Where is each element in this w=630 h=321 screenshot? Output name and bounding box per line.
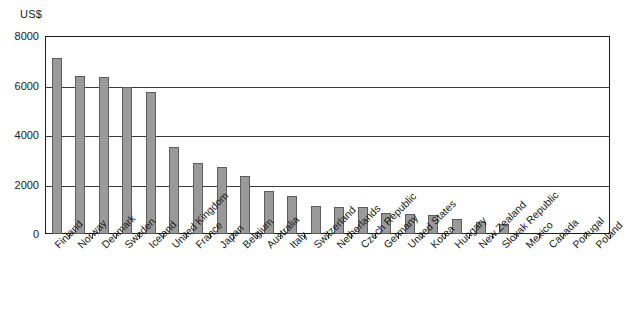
bar[interactable] <box>52 58 62 234</box>
y-tick-label-0: 0 <box>33 228 39 240</box>
bar-chart: US$ 02000400060008000 FinlandNorwayDenma… <box>0 0 630 321</box>
bar[interactable] <box>75 76 85 234</box>
y-tick-label-4000: 4000 <box>15 129 39 141</box>
y-tick-label-6000: 6000 <box>15 80 39 92</box>
bar[interactable] <box>311 206 321 234</box>
bar[interactable] <box>146 92 156 234</box>
y-tick-label-8000: 8000 <box>15 30 39 42</box>
bar[interactable] <box>99 77 109 234</box>
y-tick-label-2000: 2000 <box>15 179 39 191</box>
y-axis-unit-label: US$ <box>20 8 42 20</box>
